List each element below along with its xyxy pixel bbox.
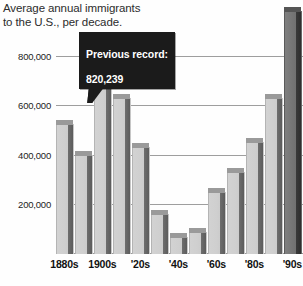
bar-1940s xyxy=(170,237,187,254)
bar-side xyxy=(239,172,244,254)
bar-top xyxy=(189,228,206,233)
bar-1880s xyxy=(56,124,73,254)
bar-1930s xyxy=(151,214,168,254)
y-axis: 200,000400,000600,000800,000 xyxy=(0,0,54,260)
bar-top xyxy=(170,233,187,238)
y-axis-tick-label: 400,000 xyxy=(18,149,51,160)
bar-top xyxy=(75,151,92,156)
bar-1920s xyxy=(132,147,149,254)
bar-top xyxy=(113,94,130,99)
bar-side xyxy=(163,214,168,254)
bar-top xyxy=(284,7,301,12)
callout-line-1: Previous record: xyxy=(86,48,168,60)
x-axis-tick-label: '40s xyxy=(169,258,188,270)
bar-side xyxy=(220,192,225,254)
x-axis-tick-label: 1900s xyxy=(88,258,116,270)
bar-top xyxy=(246,138,263,143)
bar-top xyxy=(227,168,244,173)
bar-1970s xyxy=(227,172,244,254)
y-axis-tick-label: 800,000 xyxy=(18,50,51,61)
callout-box: Previous record: 820,239 xyxy=(79,32,175,89)
bar-1890s xyxy=(75,155,92,254)
bar-1950s xyxy=(189,232,206,254)
bar-side xyxy=(277,98,282,254)
bar-top xyxy=(56,120,73,125)
x-axis-tick-label: '60s xyxy=(207,258,226,270)
bar-side xyxy=(68,124,73,254)
bar-side xyxy=(258,142,263,254)
bar-side xyxy=(201,232,206,254)
bar-side xyxy=(182,237,187,254)
bar-1990s_a xyxy=(265,98,282,254)
callout-pointer-icon xyxy=(87,89,102,103)
bar-top xyxy=(132,143,149,148)
bar-1960s xyxy=(208,192,225,254)
x-axis-tick-label: 1880s xyxy=(50,258,78,270)
bar-top xyxy=(265,94,282,99)
x-axis-tick-label: '80s xyxy=(245,258,264,270)
bar-top xyxy=(151,210,168,215)
bar-side xyxy=(87,155,92,254)
x-axis-tick-label: '90s xyxy=(283,258,302,270)
callout-line-2: 820,239 xyxy=(86,73,123,85)
x-axis-tick-label: '20s xyxy=(131,258,150,270)
bar-side xyxy=(125,98,130,254)
previous-record-callout: Previous record: 820,239 xyxy=(79,32,175,89)
bar-1980s xyxy=(246,142,263,254)
x-axis: 1880s1900s'20s'40s'60s'80s'90s xyxy=(56,258,303,276)
immigrants-bar-chart: Average annual immigrants to the U.S., p… xyxy=(0,0,303,286)
y-axis-tick-label: 600,000 xyxy=(18,100,51,111)
bar-top xyxy=(208,188,225,193)
bar-1990s xyxy=(284,11,301,254)
bar-side xyxy=(296,11,301,254)
bar-1910s xyxy=(113,98,130,254)
bar-side xyxy=(144,147,149,254)
y-axis-tick-label: 200,000 xyxy=(18,199,51,210)
